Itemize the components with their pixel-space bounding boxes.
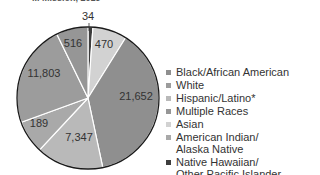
slice-value-label: 21,652 — [119, 90, 153, 102]
legend-item-asian: Asian — [166, 118, 295, 130]
legend-swatch — [166, 83, 171, 88]
legend-item-white: White — [166, 79, 295, 91]
legend-swatch — [166, 109, 171, 114]
legend-swatch — [166, 70, 171, 75]
legend: Black/African American White Hispanic/La… — [166, 66, 295, 175]
legend-label: Native Hawaiian/ Other Pacific Islander — [176, 156, 281, 175]
legend-swatch — [166, 122, 171, 127]
legend-label: Asian — [176, 118, 204, 130]
legend-swatch — [166, 96, 171, 101]
legend-item-american-indian-alaska-native: American Indian/ Alaska Native — [166, 131, 295, 155]
legend-label: Hispanic/Latino* — [176, 92, 256, 104]
legend-label: Black/African American — [176, 66, 289, 78]
legend-swatch — [166, 160, 171, 165]
slice-value-label: 516 — [64, 37, 82, 49]
slice-value-label: 7,347 — [65, 131, 93, 143]
legend-label: White — [176, 79, 204, 91]
legend-item-hispanic-latino: Hispanic/Latino* — [166, 92, 295, 104]
legend-swatch — [166, 135, 171, 140]
slice-value-label: 470 — [95, 38, 113, 50]
legend-label: American Indian/ Alaska Native — [176, 131, 259, 155]
legend-item-black-african-american: Black/African American — [166, 66, 295, 78]
legend-label: Multiple Races — [176, 105, 248, 117]
legend-item-multiple-races: Multiple Races — [166, 105, 295, 117]
legend-item-native-hawaiian-pacific-islander: Native Hawaiian/ Other Pacific Islander — [166, 156, 295, 175]
slice-value-label: 11,803 — [28, 67, 61, 79]
slice-value-label: 34 — [82, 10, 94, 22]
slice-value-label: 189 — [30, 117, 48, 129]
